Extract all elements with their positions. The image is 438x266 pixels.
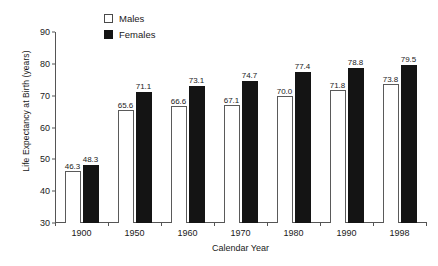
bar-value-label: 78.8 xyxy=(348,58,364,67)
x-tick-mark xyxy=(320,222,321,226)
x-tick-label: 1900 xyxy=(71,228,91,238)
legend-label-females: Females xyxy=(119,29,155,40)
y-tick-label: 50 xyxy=(40,154,50,164)
x-tick-mark xyxy=(214,222,215,226)
bar-females-1900: 48.3 xyxy=(83,165,99,223)
bar-males-1950: 65.6 xyxy=(118,110,134,223)
x-tick-label: 1998 xyxy=(389,228,409,238)
x-tick-label: 1960 xyxy=(177,228,197,238)
bar-males-1900: 46.3 xyxy=(65,171,81,223)
filled-square-swatch-icon xyxy=(104,30,113,39)
bar-females-1998: 79.5 xyxy=(401,65,417,223)
y-axis-line xyxy=(55,32,56,223)
y-tick-label: 90 xyxy=(40,27,50,37)
x-tick-label: 1990 xyxy=(336,228,356,238)
x-tick-mark xyxy=(108,222,109,226)
y-tick-label: 80 xyxy=(40,59,50,69)
legend-label-males: Males xyxy=(119,13,144,24)
chart-legend: Males Females xyxy=(104,10,155,42)
x-tick-label: 1950 xyxy=(124,228,144,238)
bar-value-label: 79.5 xyxy=(401,55,417,64)
plot-area: 30405060708090 1900195019601970198019901… xyxy=(55,32,426,223)
bar-males-1998: 73.8 xyxy=(383,84,399,223)
x-axis-line xyxy=(55,222,426,223)
x-tick-mark xyxy=(267,222,268,226)
legend-item-males: Males xyxy=(104,10,155,26)
bar-value-label: 71.8 xyxy=(330,81,346,90)
y-tick-label: 70 xyxy=(40,91,50,101)
y-tick-mark xyxy=(52,127,55,128)
bar-value-label: 66.6 xyxy=(171,97,187,106)
bar-value-label: 70.0 xyxy=(277,87,293,96)
y-tick-mark xyxy=(52,95,55,96)
bar-value-label: 65.6 xyxy=(118,101,134,110)
life-expectancy-bar-chart: Life Expectancy at Birth (years) 3040506… xyxy=(0,0,438,266)
y-tick-mark xyxy=(52,32,55,33)
bar-males-1970: 67.1 xyxy=(224,105,240,223)
bar-males-1980: 70.0 xyxy=(277,96,293,223)
bar-males-1990: 71.8 xyxy=(330,90,346,223)
bar-females-1990: 78.8 xyxy=(348,68,364,223)
bar-females-1980: 77.4 xyxy=(295,72,311,223)
bar-value-label: 48.3 xyxy=(83,155,99,164)
x-tick-mark xyxy=(373,222,374,226)
y-tick-label: 40 xyxy=(40,186,50,196)
y-tick-label: 30 xyxy=(40,218,50,228)
x-axis-title: Calendar Year xyxy=(55,243,426,253)
bar-males-1960: 66.6 xyxy=(171,106,187,223)
y-tick-mark xyxy=(52,191,55,192)
bar-value-label: 71.1 xyxy=(136,82,152,91)
x-tick-mark xyxy=(426,222,427,226)
x-tick-mark xyxy=(161,222,162,226)
x-tick-label: 1980 xyxy=(283,228,303,238)
y-axis-title: Life Expectancy at Birth (years) xyxy=(21,1,31,221)
bar-females-1970: 74.7 xyxy=(242,81,258,223)
bar-value-label: 46.3 xyxy=(65,162,81,171)
x-tick-label: 1970 xyxy=(230,228,250,238)
bar-value-label: 77.4 xyxy=(295,62,311,71)
bar-females-1960: 73.1 xyxy=(189,86,205,223)
y-tick-mark xyxy=(52,63,55,64)
x-tick-mark xyxy=(55,222,56,226)
bar-value-label: 67.1 xyxy=(224,96,240,105)
bar-value-label: 74.7 xyxy=(242,71,258,80)
y-tick-label: 60 xyxy=(40,123,50,133)
y-tick-mark xyxy=(52,159,55,160)
bar-value-label: 73.8 xyxy=(383,75,399,84)
legend-item-females: Females xyxy=(104,26,155,42)
bar-females-1950: 71.1 xyxy=(136,92,152,223)
bar-value-label: 73.1 xyxy=(189,76,205,85)
open-square-swatch-icon xyxy=(104,14,113,23)
